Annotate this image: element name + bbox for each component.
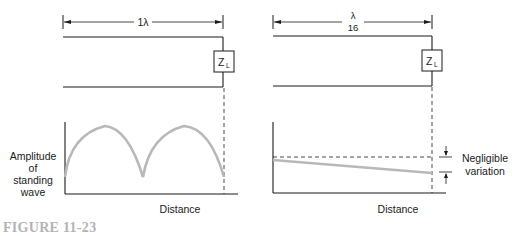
y-axis-label-line4: wave — [20, 186, 46, 198]
right-transmission-line: λ 16 Z L — [273, 10, 442, 193]
load-subscript: L — [226, 62, 230, 69]
figure-caption: FIGURE 11-23 — [3, 220, 96, 235]
arrow-left-icon — [64, 20, 71, 24]
x-axis-label: Distance — [378, 203, 419, 215]
y-axis-label-line3: standing — [13, 174, 53, 186]
left-amplitude-plot: Amplitude of standing wave Distance — [10, 122, 238, 215]
arrow-up-icon — [444, 173, 448, 178]
left-transmission-line: 1λ Z L — [63, 15, 234, 194]
y-axis-label-line1: Amplitude — [10, 150, 57, 162]
arrow-right-icon — [215, 20, 222, 24]
y-axis-label-line2: of — [29, 162, 38, 174]
load-label: Z — [218, 56, 225, 68]
length-label-denominator: 16 — [348, 22, 359, 33]
right-amplitude-plot: Negligible variation Distance — [273, 122, 508, 215]
length-label-numerator: λ — [351, 10, 356, 21]
load-subscript: L — [434, 61, 438, 68]
figure-canvas: 1λ Z L Amplitude of standing wave Distan… — [0, 0, 518, 236]
standing-wave-curve — [65, 126, 224, 177]
load-label: Z — [426, 55, 433, 67]
amplitude-line — [273, 160, 432, 173]
annotation-line2: variation — [465, 165, 505, 177]
x-axis-label: Distance — [160, 203, 201, 215]
arrow-down-icon — [444, 151, 448, 156]
length-label: 1λ — [137, 16, 149, 28]
arrow-right-icon — [424, 20, 431, 24]
annotation-line1: Negligible — [462, 152, 508, 164]
arrow-left-icon — [274, 20, 281, 24]
